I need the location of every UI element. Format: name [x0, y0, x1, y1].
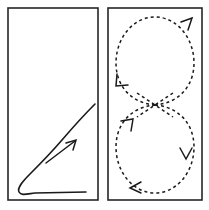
left-panel-frame	[8, 8, 98, 200]
right-panel	[108, 8, 202, 200]
figure-canvas	[0, 0, 209, 210]
left-panel	[8, 8, 98, 200]
figure-root	[0, 0, 209, 210]
